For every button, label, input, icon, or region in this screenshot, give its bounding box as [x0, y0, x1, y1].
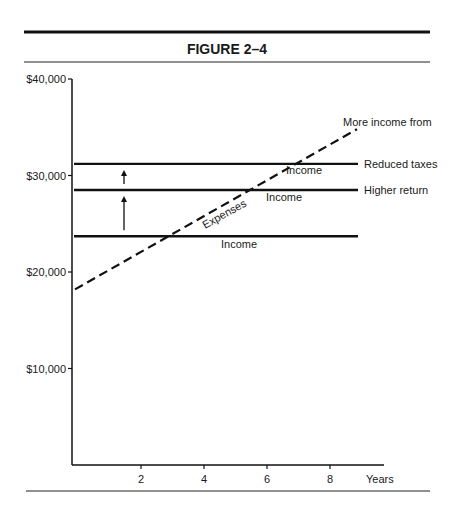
annotation-label: More income from [343, 116, 432, 128]
income-label: Income [221, 238, 257, 250]
income-label: Income [266, 191, 302, 203]
expenses-label: Expenses [200, 197, 249, 231]
arrow-head [121, 196, 127, 202]
y-tick-label: $10,000 [26, 363, 66, 375]
y-tick-label: $40,000 [26, 73, 66, 85]
x-tick-label: 2 [138, 473, 144, 485]
x-tick-label: 8 [327, 473, 333, 485]
line-end-label: Reduced taxes [364, 158, 438, 170]
y-tick-label: $30,000 [26, 170, 66, 182]
figure-title: FIGURE 2–4 [187, 41, 267, 57]
x-tick-label: 4 [201, 473, 207, 485]
figure-2-4: FIGURE 2–4 $10,000$20,000$30,000$40,000 … [0, 0, 454, 516]
income-label: Income [286, 164, 322, 176]
expenses-line [75, 129, 357, 289]
arrow-head [121, 170, 127, 176]
line-end-label: Higher return [364, 184, 428, 196]
x-tick-label: 6 [264, 473, 270, 485]
y-tick-label: $20,000 [26, 266, 66, 278]
x-axis-label: Years [366, 473, 394, 485]
